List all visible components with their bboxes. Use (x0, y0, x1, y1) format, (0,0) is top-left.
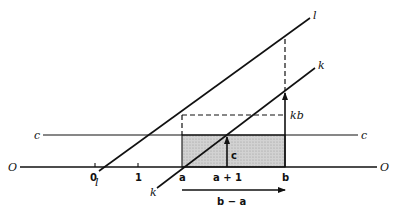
label-c-left: c (34, 129, 40, 142)
label-k-bottom: k (150, 186, 157, 199)
line-k (157, 68, 315, 188)
label-c-right: c (361, 129, 367, 142)
label-o-right: O (380, 161, 389, 174)
label-k-top: k (318, 59, 325, 72)
label-l-top: l (313, 9, 317, 22)
label-tick-a: a (179, 172, 186, 183)
label-tick-0: 0 (90, 172, 97, 183)
label-tick-b: b (282, 172, 289, 183)
diagram-canvas: O O c c l l k k 0 1 a a + 1 b c kb b − a (0, 0, 398, 214)
label-arrow-kb: kb (290, 109, 304, 122)
label-arrow-c: c (231, 150, 237, 161)
label-o-left: O (8, 161, 17, 174)
label-b-minus-a: b − a (217, 196, 246, 207)
label-tick-a-plus-1: a + 1 (213, 172, 242, 183)
label-tick-1: 1 (135, 172, 142, 183)
